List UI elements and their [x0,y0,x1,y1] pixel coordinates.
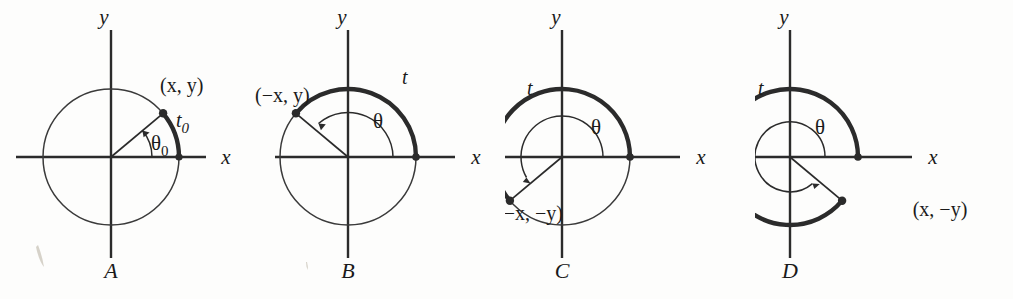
panel-b: y x (−x, y) θ t B [250,0,505,299]
initial-point-dot [626,153,634,161]
arc-subscript: 0 [182,120,190,136]
terminal-point-dot [292,109,300,117]
initial-point-dot [175,153,182,160]
angle-arrow-icon [319,124,326,131]
panel-d: x y x (x, −y) θ t D [755,0,1013,299]
initial-point-dot [854,153,862,161]
paper-smudge [36,245,44,267]
angle-subscript: 0 [161,143,169,159]
terminal-point-dot [838,197,846,205]
angle-label: θ [591,115,601,139]
terminal-ray [510,157,562,201]
y-axis-label: y [777,5,789,29]
terminal-ray [790,157,842,201]
x-axis-label: x [220,145,231,169]
panel-letter: B [341,258,354,283]
panel-letter: A [102,258,118,283]
y-axis-label: y [549,5,561,29]
angle-label: θ [815,115,825,139]
y-axis-label: y [335,5,347,29]
angle-label: θ0 [151,131,169,159]
panel-letter: D [781,258,798,283]
x-axis-label: x [927,145,938,169]
point-label: (x, −y) [913,198,968,221]
panel-letter: C [555,258,570,283]
paper-smudge [306,262,308,270]
arc-label: t [402,66,408,88]
point-label: (−x, −y) [505,202,563,225]
angle-symbol: θ [151,131,161,155]
angle-arrow-icon [523,178,531,184]
angle-arrow-icon [813,184,820,189]
y-axis-label: y [97,5,109,29]
x-axis-label: x [470,145,481,169]
point-label: (x, y) [160,74,203,97]
arc-label: t [527,77,533,99]
terminal-point-dot [159,109,167,117]
arc-highlight [505,89,630,201]
unit-circle-figure: y x (x, y) θ0 t0 A y x (−x, y) θ [0,0,1013,299]
initial-point-dot [412,153,420,161]
panel-c: y x (−x, −y) θ t C [505,0,755,299]
arc-label: t [758,77,764,99]
point-label: (−x, y) [255,84,310,107]
angle-label: θ [373,109,383,133]
arc-highlight [296,89,416,157]
panel-a: y x (x, y) θ0 t0 A [0,0,250,299]
arc-label: t0 [176,109,190,136]
x-axis-label: x [695,145,706,169]
